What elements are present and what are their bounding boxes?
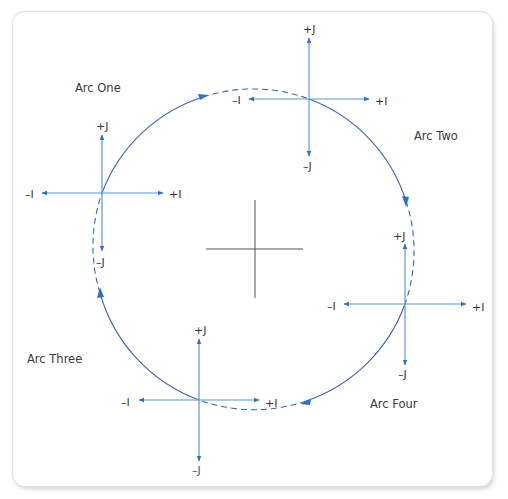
bottom-plus-j-label: +J	[194, 325, 206, 336]
arc-four-label: Arc Four	[370, 399, 418, 411]
top-axis-cross	[249, 38, 369, 156]
left-minus-i-label: –I	[25, 189, 34, 200]
arc-three-dashed	[93, 193, 102, 293]
arc-three-label: Arc Three	[27, 354, 82, 366]
arc-four-solid	[306, 304, 405, 401]
arc-one-dashed	[203, 89, 309, 99]
left-minus-j-label: –J	[96, 257, 105, 268]
left-plus-i-label: +I	[169, 189, 181, 200]
center-crosshair	[206, 200, 303, 298]
top-minus-j-label: –J	[303, 161, 312, 172]
arc-two-dashed	[405, 201, 414, 304]
arc-two-arrow-icon	[402, 196, 409, 207]
arc-four-dashed	[199, 400, 306, 410]
top-plus-j-label: +J	[303, 24, 315, 35]
arc-two-label: Arc Two	[414, 131, 458, 143]
arc-three-arrow-icon	[97, 287, 104, 298]
right-minus-i-label: –I	[327, 301, 336, 312]
right-plus-i-label: +I	[472, 302, 484, 313]
bottom-axis-cross	[139, 339, 259, 461]
arc-two-solid	[309, 99, 406, 201]
arc-one-solid	[102, 97, 203, 193]
arc-one-label: Arc One	[75, 83, 121, 95]
right-plus-j-label: +J	[393, 231, 405, 242]
left-axis-cross	[42, 135, 163, 251]
bottom-minus-j-label: –J	[192, 465, 201, 476]
top-plus-i-label: +I	[375, 96, 387, 107]
bottom-minus-i-label: –I	[121, 397, 130, 408]
top-minus-i-label: –I	[232, 95, 241, 106]
left-plus-j-label: +J	[96, 121, 108, 132]
circular-interpolation-diagram	[0, 0, 508, 499]
right-axis-cross	[344, 244, 466, 365]
right-minus-j-label: –J	[398, 369, 407, 380]
arc-three-solid	[100, 293, 199, 400]
arc-one-arrow-icon	[198, 94, 209, 100]
bottom-plus-i-label: +I	[265, 398, 277, 409]
